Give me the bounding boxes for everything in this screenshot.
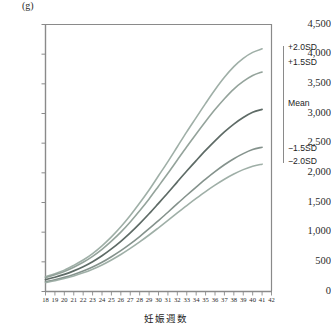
legend-label-mean: Mean xyxy=(288,98,310,108)
legend-label--20sd: −2.0SD xyxy=(288,156,317,166)
y-tick-label: 500 xyxy=(291,255,331,266)
x-axis-title: 妊娠週数 xyxy=(0,311,331,325)
legend-label-20sd: +2.0SD xyxy=(288,42,317,52)
y-tick-label: 2,000 xyxy=(291,166,331,177)
growth-chart: (g) 05001,0001,5002,0002,5003,0003,5004,… xyxy=(0,0,331,330)
y-tick-label: 0 xyxy=(291,285,331,296)
data-series-group xyxy=(46,49,263,283)
chart-canvas xyxy=(0,0,331,330)
y-tick-label: 3,500 xyxy=(291,77,331,88)
series-line-20sd xyxy=(46,49,263,277)
y-tick-label: 4,500 xyxy=(291,18,331,29)
x-tick-label: 42 xyxy=(264,296,280,303)
y-tick-label: 3,000 xyxy=(291,107,331,118)
series-line--15sd xyxy=(46,147,263,282)
series-line-mean xyxy=(46,109,263,279)
series-line-15sd xyxy=(46,72,263,278)
legend-label-15sd: +1.5SD xyxy=(288,57,317,67)
y-tick-label: 1,500 xyxy=(291,196,331,207)
legend-label--15sd: −1.5SD xyxy=(288,143,317,153)
axes xyxy=(45,24,272,292)
y-tick-label: 1,000 xyxy=(291,225,331,236)
